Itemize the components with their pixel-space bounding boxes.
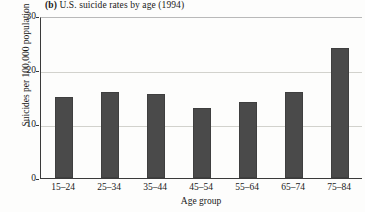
y-axis-ticks: 0102030 xyxy=(0,17,36,179)
x-tick-label: 15–24 xyxy=(41,182,85,192)
y-tick-mark xyxy=(36,17,39,18)
gridline xyxy=(41,72,362,73)
x-tick-label: 45–54 xyxy=(179,182,223,192)
y-tick-mark xyxy=(36,179,39,180)
bar xyxy=(193,108,211,178)
bar xyxy=(147,94,165,178)
x-tick-label: 25–34 xyxy=(87,182,131,192)
chart-title-text: U.S. suicide rates by age (1994) xyxy=(57,0,184,10)
chart-figure: (b) U.S. suicide rates by age (1994) Sui… xyxy=(0,0,365,212)
x-tick-label: 75–84 xyxy=(317,182,361,192)
chart-title: (b) U.S. suicide rates by age (1994) xyxy=(45,0,184,10)
x-tick-label: 55–64 xyxy=(225,182,269,192)
panel-letter: (b) xyxy=(45,0,57,10)
y-tick-label: 0 xyxy=(2,173,36,183)
plot-area xyxy=(40,17,362,179)
x-tick-label: 65–74 xyxy=(271,182,315,192)
bar xyxy=(285,92,303,178)
x-tick-label: 35–44 xyxy=(133,182,177,192)
y-tick-mark xyxy=(36,71,39,72)
y-tick-mark xyxy=(36,125,39,126)
x-axis-title: Age group xyxy=(40,196,362,206)
y-tick-label: 20 xyxy=(2,65,36,75)
bar xyxy=(239,102,257,178)
y-tick-label: 30 xyxy=(2,11,36,21)
y-tick-label: 10 xyxy=(2,119,36,129)
x-axis-ticks: 15–2425–3435–4445–5455–6465–7475–84 xyxy=(40,182,362,196)
bar xyxy=(55,97,73,178)
bar xyxy=(101,92,119,178)
bar xyxy=(331,48,349,178)
